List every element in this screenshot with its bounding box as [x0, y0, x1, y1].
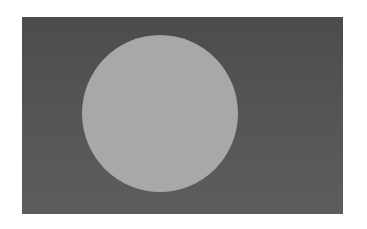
light-gray-circle	[82, 35, 238, 192]
image-canvas	[0, 0, 367, 229]
